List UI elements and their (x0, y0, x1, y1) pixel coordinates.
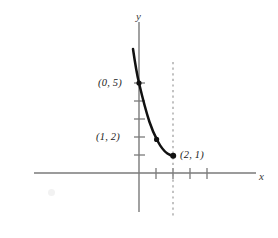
point-label-1-2: (1, 2) (96, 132, 120, 143)
data-point-2-1 (170, 153, 176, 159)
y-axis-label: y (136, 11, 141, 22)
point-label-0-5: (0, 5) (98, 78, 122, 89)
exponential-decay-graph-figure: y x (0, 5) (1, 2) (2, 1) (0, 0, 278, 238)
graph-canvas (0, 0, 278, 238)
data-point-0-5 (136, 80, 141, 85)
point-label-2-1: (2, 1) (180, 150, 204, 161)
x-axis-label: x (259, 171, 264, 182)
data-point-1-2 (154, 137, 159, 142)
